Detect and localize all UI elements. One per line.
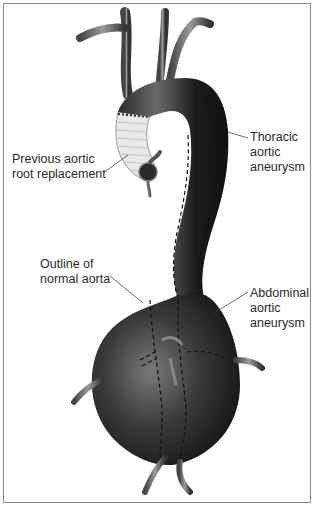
thoracic-aorta [118, 78, 228, 300]
label-thoracic-aneurysm: Thoracic aortic aneurysm [250, 130, 305, 175]
label-normal-aorta-outline: Outline of normal aorta [40, 257, 110, 287]
abdominal-aneurysm-sac [92, 295, 240, 465]
label-aortic-root-replacement: Previous aortic root replacement [12, 152, 106, 182]
valve-icon [139, 163, 157, 181]
label-abdominal-aneurysm: Abdominal aortic aneurysm [250, 286, 309, 331]
aortic-root-graft [116, 112, 160, 196]
aorta-illustration [0, 0, 315, 507]
